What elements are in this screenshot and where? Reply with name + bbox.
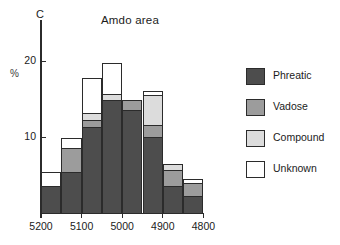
x-axis-tick: [203, 213, 204, 218]
x-axis-tick-label: 5200: [21, 220, 61, 232]
legend-label: Phreatic: [273, 69, 312, 81]
legend-swatch-unknown: [246, 161, 265, 178]
legend-label: Unknown: [273, 162, 317, 174]
legend-swatch-phreatic: [246, 68, 265, 85]
chart-figure: C Amdo area % 102052005100500049004800 P…: [0, 0, 340, 245]
legend-label: Compound: [273, 131, 324, 143]
x-axis-tick: [162, 213, 163, 218]
x-axis-tick-label: 4900: [143, 220, 183, 232]
y-axis-tick-label: 20: [10, 54, 36, 66]
x-axis-tick: [81, 213, 82, 218]
x-axis-tick-label: 5000: [102, 220, 142, 232]
x-axis-tick: [40, 213, 41, 218]
x-axis-tick-label: 5100: [62, 220, 102, 232]
axis-decorations: 102052005100500049004800: [0, 0, 340, 245]
y-axis-tick: [41, 61, 46, 63]
y-axis-tick-label: 10: [10, 130, 36, 142]
x-axis-tick-label: 4800: [183, 220, 223, 232]
y-axis-tick: [41, 137, 46, 139]
legend-swatch-vadose: [246, 99, 265, 116]
x-axis-tick: [122, 213, 123, 218]
legend-swatch-compound: [246, 130, 265, 147]
legend-label: Vadose: [273, 100, 308, 112]
